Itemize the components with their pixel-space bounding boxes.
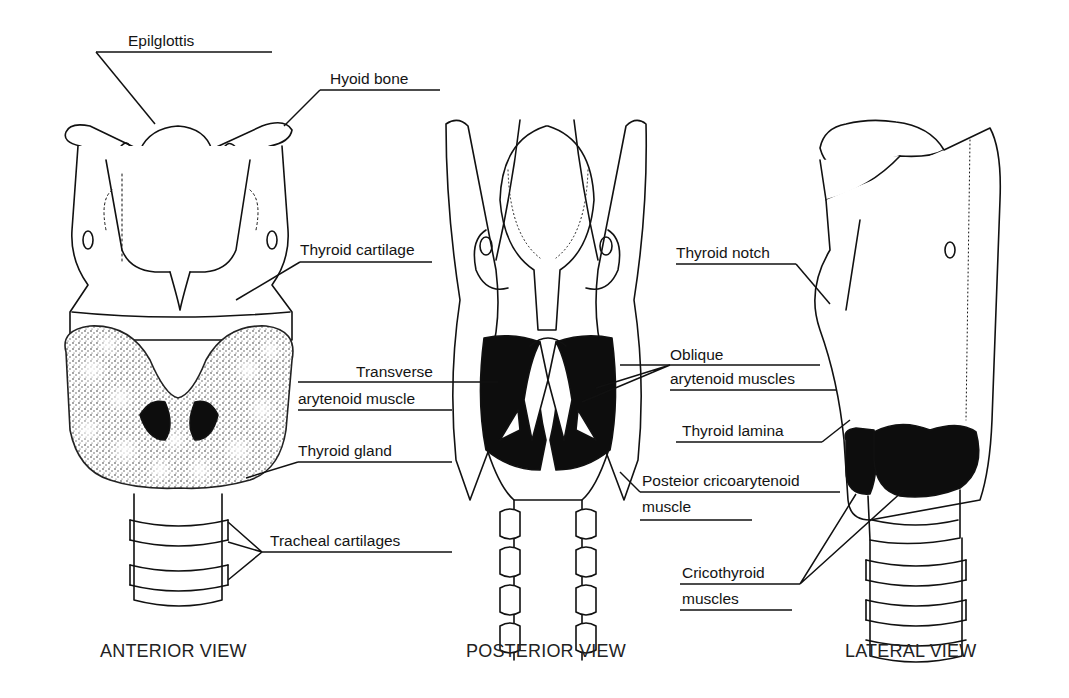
posterior-view-drawing: [446, 120, 646, 660]
label-thyroid-lamina: Thyroid lamina: [682, 422, 784, 440]
label-hyoid-bone: Hyoid bone: [330, 70, 408, 88]
label-thyroid-cartilage: Thyroid cartilage: [300, 241, 415, 259]
label-transverse-line1: Transverse: [356, 363, 433, 381]
label-posterior-crico-line1: Posteior cricoarytenoid: [642, 472, 800, 490]
label-epiglottis: Epilglottis: [128, 32, 194, 50]
label-thyroid-notch: Thyroid notch: [676, 244, 770, 262]
label-transverse-line2: arytenoid muscle: [298, 390, 415, 408]
caption-posterior-view: POSTERIOR VIEW: [466, 641, 626, 662]
caption-anterior-view: ANTERIOR VIEW: [100, 641, 247, 662]
label-oblique-line1: Oblique: [670, 346, 723, 364]
label-posterior-crico-line2: muscle: [642, 498, 691, 516]
label-cricothyroid-line2: muscles: [682, 590, 739, 608]
caption-lateral-view: LATERAL VIEW: [845, 641, 976, 662]
label-oblique-line2: arytenoid muscles: [670, 370, 795, 388]
label-cricothyroid-line1: Cricothyroid: [682, 564, 765, 582]
lateral-view-drawing: [815, 120, 1000, 662]
label-tracheal-cartilages: Tracheal cartilages: [270, 532, 400, 550]
label-thyroid-gland: Thyroid gland: [298, 442, 392, 460]
larynx-illustration: [0, 0, 1069, 698]
anterior-view-drawing: [65, 123, 293, 606]
